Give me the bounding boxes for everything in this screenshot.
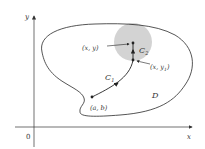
y-axis-label: y: [24, 13, 30, 21]
origin-label: 0: [26, 133, 30, 141]
x-axis-label: x: [187, 133, 191, 141]
point-x-y: [132, 42, 135, 45]
point-x-y1-label: (x, y1): [150, 63, 170, 72]
curve-c1-label: C1: [105, 73, 114, 83]
point-x-y-label: (x, y): [82, 44, 99, 52]
leader-x-y1: [137, 61, 150, 64]
point-x-y1: [132, 59, 135, 62]
point-a-b: [91, 96, 94, 99]
diagram-canvas: 0 x y (x, y) (x, y1) (a, b) C1 C2 D: [0, 0, 205, 149]
point-a-b-label: (a, b): [90, 104, 108, 112]
region-label: D: [151, 91, 159, 100]
